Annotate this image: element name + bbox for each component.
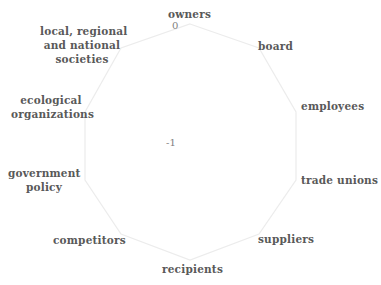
category-label-owners: owners <box>168 7 211 21</box>
tick-label-center: -1 <box>166 137 176 148</box>
category-label-competitors: competitors <box>53 233 126 247</box>
category-label-employees: employees <box>301 99 364 113</box>
category-label-board: board <box>258 39 293 53</box>
label-line: organizations <box>11 107 91 121</box>
radar-chart: 0 -1 owners board employees trade unions… <box>0 0 381 285</box>
category-label-suppliers: suppliers <box>258 232 314 246</box>
category-label-recipients: recipients <box>162 262 223 276</box>
label-line: and national <box>40 38 124 52</box>
tick-label-outer: 0 <box>172 20 178 31</box>
label-line: local, regional <box>40 24 124 38</box>
label-line: policy <box>8 180 80 194</box>
label-line: ecological <box>11 93 91 107</box>
category-label-local-societies: local, regional and national societies <box>40 24 124 66</box>
label-line: government <box>8 166 80 180</box>
category-label-ecological-organizations: ecological organizations <box>11 93 91 121</box>
label-line: societies <box>40 52 124 66</box>
category-label-government-policy: government policy <box>8 166 80 194</box>
category-label-trade-unions: trade unions <box>301 173 378 187</box>
